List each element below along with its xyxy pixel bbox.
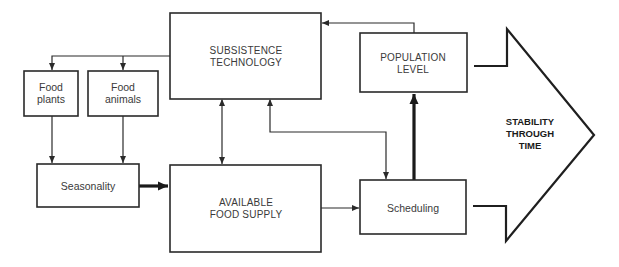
available-label-line2: FOOD SUPPLY xyxy=(210,209,283,220)
seasonality-label: Seasonality xyxy=(61,180,116,192)
stability-label-line1: STABILITY xyxy=(506,116,555,127)
node-food-plants: Food plants xyxy=(24,71,78,116)
node-subsistence-technology: SUBSISTENCE TECHNOLOGY xyxy=(170,13,321,99)
subsistence-label-line1: SUBSISTENCE xyxy=(210,45,283,56)
edge-population-to-subsistence xyxy=(322,23,414,33)
population-label-line1: POPULATION xyxy=(380,52,446,63)
diagram-canvas: STABILITY THROUGH TIME SUBSISTENCE TECHN… xyxy=(0,0,619,267)
node-population-level: POPULATION LEVEL xyxy=(360,33,467,92)
food-plants-label-line2: plants xyxy=(37,93,65,105)
population-label-line2: LEVEL xyxy=(397,64,429,75)
stability-label-line2: THROUGH xyxy=(506,128,554,139)
node-food-animals: Food animals xyxy=(88,71,158,116)
food-animals-label-line1: Food xyxy=(111,81,135,93)
food-animals-label-line2: animals xyxy=(105,93,141,105)
node-scheduling: Scheduling xyxy=(360,180,466,234)
node-available-food-supply: AVAILABLE FOOD SUPPLY xyxy=(170,165,321,252)
stability-through-time-arrow: STABILITY THROUGH TIME xyxy=(473,29,594,241)
node-seasonality: Seasonality xyxy=(37,164,139,207)
edge-subsistence-to-food xyxy=(52,56,170,70)
stability-label-line3: TIME xyxy=(519,140,542,151)
scheduling-label: Scheduling xyxy=(387,202,439,214)
subsistence-label-line2: TECHNOLOGY xyxy=(210,57,282,68)
available-label-line1: AVAILABLE xyxy=(219,197,273,208)
food-plants-label-line1: Food xyxy=(39,81,63,93)
